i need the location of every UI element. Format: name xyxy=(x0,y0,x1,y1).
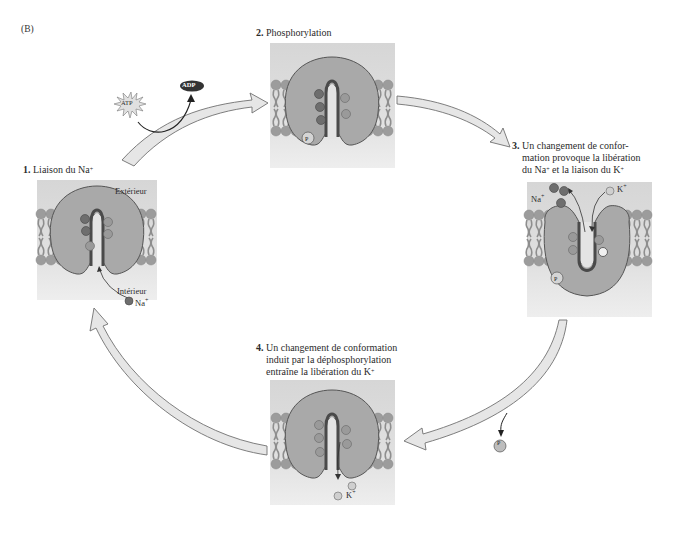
atp-adp-reaction xyxy=(114,81,507,453)
atp-label: ATP xyxy=(121,99,133,106)
arrow-step2-to-step3 xyxy=(397,96,510,147)
pi-text: P xyxy=(497,440,500,446)
cycle-arrows xyxy=(0,0,676,539)
arrow-step3-to-step4 xyxy=(404,320,567,450)
arrow-step4-to-step1 xyxy=(90,308,267,455)
pi-released-label: P xyxy=(497,440,500,446)
adp-label: ADP xyxy=(182,81,195,88)
